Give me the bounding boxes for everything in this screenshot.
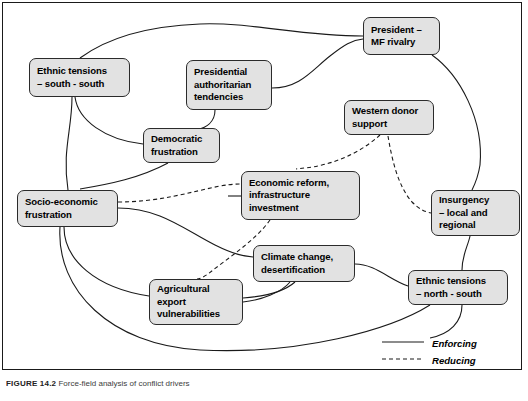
node-ethnic-tensions-south[interactable]: Ethnic tensions – south - south <box>29 58 130 97</box>
node-agricultural-export-vulnerabilities[interactable]: Agricultural export vulnerabilities <box>149 279 243 325</box>
node-insurgency-local-and-regional[interactable]: Insurgency – local and regional <box>431 190 520 236</box>
node-western-donor-support[interactable]: Western donor support <box>344 100 434 135</box>
node-president-mf-rivalry[interactable]: President – MF rivalry <box>363 17 440 55</box>
node-socio-economic-frustration[interactable]: Socio-economic frustration <box>17 190 118 227</box>
node-climate-change-desertification[interactable]: Climate change, desertification <box>253 245 355 282</box>
legend-label-enforcing: Enforcing <box>432 338 477 349</box>
figure-number: FIGURE 14.2 <box>6 379 56 388</box>
node-presidential-authoritarian-tendencies[interactable]: Presidential authoritarian tendencies <box>186 60 272 110</box>
figure-caption-text: Force-field analysis of conflict drivers <box>58 379 189 388</box>
figure-canvas: Ethnic tensions – south - south Presiden… <box>0 0 528 401</box>
node-ethnic-tensions-north-south[interactable]: Ethnic tensions – north - south <box>408 270 508 305</box>
legend-label-reducing: Reducing <box>432 355 476 366</box>
figure-caption: FIGURE 14.2 Force-field analysis of conf… <box>6 379 522 401</box>
node-democratic-frustration[interactable]: Democratic frustration <box>143 128 220 163</box>
node-economic-reform-infrastructure-investment[interactable]: Economic reform, infrastructure investme… <box>241 171 360 220</box>
